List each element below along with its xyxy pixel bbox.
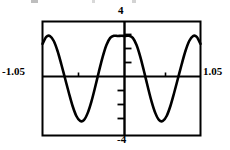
xmax-label: 1.05 — [203, 66, 222, 77]
ymin-label: -4 — [117, 134, 126, 145]
graphing-calculator-figure: 4 -4 -1.05 1.05 — [0, 0, 230, 150]
ymax-label: 4 — [118, 5, 124, 16]
xmin-label: -1.05 — [2, 66, 25, 77]
plot-canvas — [0, 0, 230, 150]
plotted-curve — [43, 36, 201, 122]
